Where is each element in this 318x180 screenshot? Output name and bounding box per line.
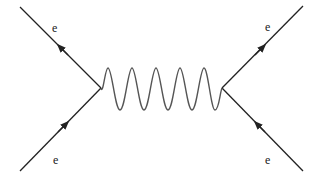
electron-line-bottom-right xyxy=(222,88,303,171)
arrow-icon xyxy=(60,47,68,55)
electron-line-top-right xyxy=(222,6,303,88)
label-bottom-right: e xyxy=(265,153,270,167)
label-top-right: e xyxy=(265,20,270,34)
arrow-icon xyxy=(58,124,66,132)
photon-propagator xyxy=(101,68,222,110)
label-bottom-left: e xyxy=(53,153,58,167)
arrow-icon xyxy=(255,47,263,55)
arrow-icon xyxy=(257,124,265,132)
electron-line-bottom-left xyxy=(20,88,101,171)
label-top-left: e xyxy=(52,21,57,35)
feynman-diagram: e e e e xyxy=(0,0,318,180)
electron-line-top-left xyxy=(20,7,101,88)
